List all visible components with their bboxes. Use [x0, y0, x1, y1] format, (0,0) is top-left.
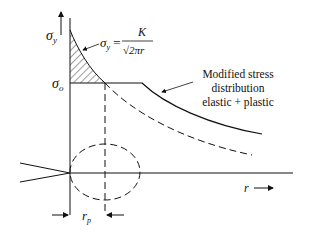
- annotation-line-3: elastic + plastic: [202, 96, 274, 109]
- formula-lhs: σy =: [100, 35, 121, 52]
- formula-numerator: K: [137, 25, 147, 39]
- formula-pointer: [83, 44, 99, 50]
- plastic-zone-label: rp: [82, 208, 91, 225]
- crack-lower-face: [20, 173, 70, 182]
- crack-upper-face: [20, 163, 70, 173]
- y-axis-label: σy: [46, 28, 57, 45]
- yield-stress-label: σo: [52, 76, 64, 93]
- x-axis-label: r: [244, 181, 249, 195]
- annotation-pointer: [162, 82, 193, 92]
- stress-distribution-diagram: σy σo σy = K √2πr Modified stress distri…: [0, 0, 309, 235]
- formula-denominator: √2πr: [123, 44, 145, 56]
- annotation-line-1: Modified stress: [202, 68, 274, 80]
- annotation-line-2: distribution: [211, 82, 264, 94]
